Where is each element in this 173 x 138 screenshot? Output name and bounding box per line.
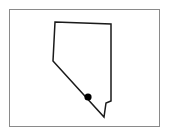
- location-marker-icon[interactable]: [84, 93, 91, 100]
- map-canvas: [0, 0, 173, 138]
- state-outline-nevada: [53, 22, 111, 117]
